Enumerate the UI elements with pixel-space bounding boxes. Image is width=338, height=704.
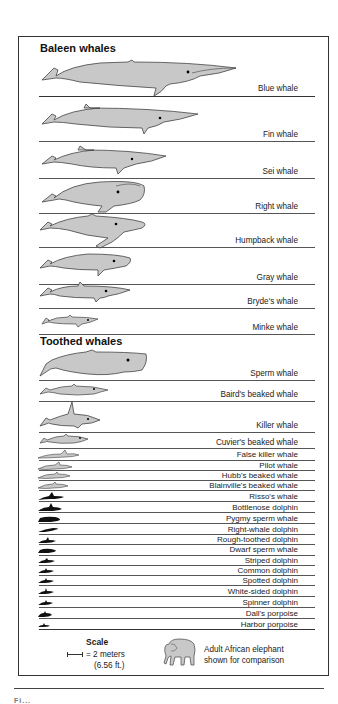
species-label: Spotted dolphin [242,576,298,585]
scale-feet: (6.56 ft.) [94,661,125,670]
pygmy-sperm-whale-icon [37,514,61,523]
species-label: Fin whale [263,130,298,139]
species-label: Spinner dolphin [242,598,298,607]
sperm-whale-icon [38,350,150,378]
species-label: Baird's beaked whale [220,390,298,399]
scale-title: Scale [86,637,108,647]
rissos-whale-icon [37,491,65,501]
right-whale-dolphin-icon [37,526,59,533]
species-label: Common dolphin [238,566,298,575]
rule-line [39,585,315,586]
rule-line [39,141,315,142]
species-label: Sei whale [262,167,298,176]
blainvilles-beaked-whale-icon [37,481,69,490]
dalls-porpoise-icon [37,610,53,618]
species-label: Minke whale [252,323,298,332]
cuviers-beaked-whale-icon [38,433,90,446]
elephant-caption-line2: shown for comparison [204,656,284,665]
bairds-beaked-whale-icon [38,382,110,398]
species-label: Pilot whale [259,461,298,470]
species-label: Blainville's beaked whale [209,481,298,490]
brydes-whale-icon [38,282,132,304]
species-label: Harbor porpoise [241,620,298,629]
species-label: Blue whale [258,84,298,93]
rule-line [39,490,315,491]
blue-whale-icon [40,58,240,98]
rule-line [39,501,315,502]
section-heading-baleen: Baleen whales [40,42,116,54]
species-label: Hubb's beaked whale [222,471,298,480]
false-killer-whale-icon [37,449,81,460]
white-sided-dolphin-icon [37,587,55,595]
scale-value: = 2 meters [67,650,125,659]
rule-line [39,618,315,619]
rough-toothed-dolphin-icon [37,536,57,544]
species-label: White-sided dolphin [228,587,298,596]
rule-line [39,96,315,97]
elephant-caption-line1: Adult African elephant [204,645,284,654]
killer-whale-icon [38,400,102,430]
common-dolphin-icon [37,567,55,574]
species-label: Dwarf sperm whale [230,545,298,554]
dwarf-sperm-whale-icon [37,546,57,554]
species-label: False killer whale [237,450,298,459]
right-whale-icon [40,180,150,214]
species-label: Striped dolphin [245,556,298,565]
spinner-dolphin-icon [37,599,54,606]
species-label: Sperm whale [250,369,298,378]
minke-whale-icon [40,314,100,328]
scale-value-text: = 2 meters [86,650,125,659]
species-label: Risso's whale [249,492,298,501]
species-label: Bryde's whale [247,297,298,306]
species-label: Pygmy sperm whale [226,514,298,523]
rule-line [39,523,315,524]
rule-line [39,308,315,309]
humpback-whale-icon [38,214,150,250]
bottlenose-dolphin-icon [37,502,63,512]
rule-line [39,596,315,597]
figure-caption-partial: Fi... [14,697,31,704]
species-label: Rough-toothed dolphin [217,535,298,544]
rule-line [39,629,315,630]
rule-line [39,247,315,248]
sei-whale-icon [40,144,170,176]
species-label: Right-whale dolphin [228,525,298,534]
striped-dolphin-icon [37,557,56,564]
rule-line [39,178,315,179]
species-label: Gray whale [257,273,298,282]
hubbs-beaked-whale-icon [37,471,71,480]
species-label: Bottlenose dolphin [232,503,298,512]
scale-bar-icon [67,652,83,657]
fin-whale-icon [40,102,200,138]
harbor-porpoise-icon [37,622,51,628]
gray-whale-icon [38,252,134,278]
species-label: Killer whale [256,421,298,430]
species-label: Right whale [255,202,298,211]
rule-line [39,607,315,608]
rule-line [39,380,315,381]
elephant-icon [163,638,197,666]
species-label: Humpback whale [235,236,298,245]
species-label: Cuvier's beaked whale [216,438,298,447]
caption-separator [14,688,324,689]
species-label: Dall's porpoise [246,609,298,618]
spotted-dolphin-icon [37,577,55,584]
section-heading-toothed: Toothed whales [40,335,122,347]
rule-line [39,512,315,513]
